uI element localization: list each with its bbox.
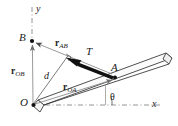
angle-theta-label: θ [110,92,115,102]
vector-subscript-r-ab: AB [59,42,68,50]
y-axis-label: y [36,4,40,14]
vector-r-ob [32,45,33,103]
point-label-o: O [20,97,28,108]
vector-subscript-r-oa: OA [67,86,76,94]
moment-arm-label: d [44,71,49,81]
mechanics-diagram: y x B O A T d θ rOB rOA rAB [0,0,178,126]
vector-label-r-oa: rOA [63,77,77,93]
vector-label-r-ob: rOB [11,61,25,77]
point-label-b: B [19,32,26,43]
vector-label-r-ab: rAB [55,33,68,49]
point-label-a: A [111,62,118,73]
tension-force-label: T [86,46,92,57]
point-a-dot [113,76,117,80]
point-b-dot [30,39,34,43]
vector-subscript-r-ob: OB [15,70,24,78]
x-axis-label: x [152,99,156,109]
point-o-dot [31,103,35,107]
